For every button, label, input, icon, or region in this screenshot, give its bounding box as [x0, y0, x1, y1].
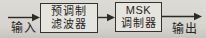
output-arrow — [162, 13, 202, 20]
block-msk-modulator-line1: MSK — [126, 4, 151, 17]
block-diagram: 输入 预调制 滤波器 MSK 调制器 输出 — [0, 0, 206, 38]
input-label: 输入 — [11, 22, 37, 34]
block-premod-filter-line1: 预调制 — [51, 5, 87, 18]
output-label: 输出 — [172, 23, 198, 35]
block-premod-filter-line2: 滤波器 — [51, 18, 87, 31]
block-premod-filter: 预调制 滤波器 — [40, 3, 98, 33]
between-blocks-arrow — [97, 14, 115, 21]
block-msk-modulator-line2: 调制器 — [121, 17, 157, 30]
block-msk-modulator: MSK 调制器 — [115, 2, 162, 32]
